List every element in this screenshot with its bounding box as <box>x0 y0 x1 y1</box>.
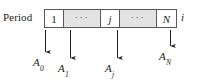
cash-flow-a0-symbol: A <box>33 56 40 68</box>
cash-flow-a1-symbol: A <box>58 62 65 74</box>
cash-flow-a1-subscript: 1 <box>65 70 69 79</box>
cash-flow-an-symbol: A <box>159 50 166 62</box>
cash-flow-a0-subscript: 0 <box>40 64 44 73</box>
cash-flow-aj-symbol: A <box>105 62 112 74</box>
cash-flow-an-subscript: N <box>166 58 171 67</box>
cash-flow-label-aj: Aj <box>105 62 114 77</box>
cash-flow-label-an: AN <box>159 50 171 65</box>
cash-flow-aj-subscript: j <box>112 70 114 79</box>
cash-flow-arrows-layer <box>0 0 198 81</box>
cash-flow-timeline-diagram: Period 1 ··· j ··· N i <box>0 0 198 81</box>
cash-flow-label-a0: A0 <box>33 56 43 71</box>
cash-flow-label-a1: A1 <box>58 62 68 77</box>
